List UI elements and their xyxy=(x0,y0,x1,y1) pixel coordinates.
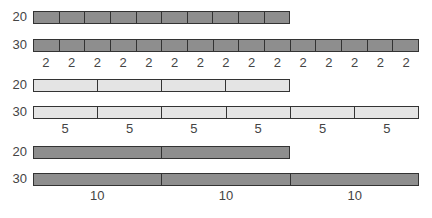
bar-segment xyxy=(265,12,290,23)
unit-label: 2 xyxy=(239,56,265,70)
bar-segment xyxy=(111,12,137,23)
unit-label: 2 xyxy=(59,56,85,70)
bar-segment xyxy=(111,40,137,51)
unit-label: 2 xyxy=(136,56,162,70)
bar-20 xyxy=(33,146,290,159)
unit-label: 5 xyxy=(226,122,290,136)
bar-segment xyxy=(316,40,342,51)
unit-label: 10 xyxy=(162,189,291,203)
unit-label: 2 xyxy=(110,56,136,70)
bar-segment xyxy=(60,12,86,23)
unit-label: 10 xyxy=(33,189,162,203)
bar-segment xyxy=(34,107,98,118)
bar-segment xyxy=(226,80,289,91)
bar-segment xyxy=(188,12,214,23)
bar-segment xyxy=(342,40,368,51)
bar-segment xyxy=(34,174,162,185)
bar-segment xyxy=(368,40,394,51)
bar-segment xyxy=(34,40,60,51)
bar-30 xyxy=(33,106,419,119)
unit-label: 2 xyxy=(162,56,188,70)
bar-segment xyxy=(85,40,111,51)
unit-label: 2 xyxy=(84,56,110,70)
bar-segment xyxy=(291,174,418,185)
bar-segment xyxy=(162,80,226,91)
unit-label: 5 xyxy=(162,122,226,136)
unit-label: 2 xyxy=(265,56,291,70)
bar-segment xyxy=(239,12,265,23)
bar-segment xyxy=(137,40,163,51)
bar-segment xyxy=(213,12,239,23)
bar-segment xyxy=(34,12,60,23)
bar-segment xyxy=(162,174,290,185)
bar-segment xyxy=(162,107,226,118)
bar-30 xyxy=(33,39,419,52)
bar-20 xyxy=(33,11,290,24)
row-label: 20 xyxy=(0,145,27,159)
bar-segment xyxy=(291,107,355,118)
unit-label: 2 xyxy=(368,56,394,70)
bar-segment xyxy=(355,107,418,118)
bar-segment xyxy=(162,147,289,158)
bar-segment xyxy=(162,12,188,23)
bar-segment xyxy=(98,80,162,91)
bar-segment xyxy=(98,107,162,118)
unit-label: 5 xyxy=(33,122,97,136)
bar-segment xyxy=(137,12,163,23)
bar-segment xyxy=(162,40,188,51)
bar-segment xyxy=(60,40,86,51)
unit-label: 2 xyxy=(213,56,239,70)
bar-segment xyxy=(265,40,291,51)
bar-segment xyxy=(34,80,98,91)
unit-label: 2 xyxy=(290,56,316,70)
unit-label: 2 xyxy=(33,56,59,70)
unit-label: 5 xyxy=(355,122,419,136)
row-label: 20 xyxy=(0,78,27,92)
bar-30 xyxy=(33,173,419,186)
unit-label: 2 xyxy=(187,56,213,70)
unit-label: 2 xyxy=(393,56,419,70)
row-label: 20 xyxy=(0,10,27,24)
bar-segment xyxy=(214,40,240,51)
bar-segment xyxy=(227,107,291,118)
row-label: 30 xyxy=(0,172,27,186)
bar-segment xyxy=(85,12,111,23)
unit-label: 10 xyxy=(290,189,419,203)
bar-segment xyxy=(239,40,265,51)
row-label: 30 xyxy=(0,105,27,119)
bar-segment xyxy=(393,40,418,51)
unit-label: 5 xyxy=(97,122,161,136)
unit-label: 2 xyxy=(316,56,342,70)
bar-segment xyxy=(188,40,214,51)
bar-20 xyxy=(33,79,290,92)
row-label: 30 xyxy=(0,38,27,52)
bar-segment xyxy=(291,40,317,51)
unit-label: 5 xyxy=(290,122,354,136)
bar-segment xyxy=(34,147,162,158)
unit-label: 2 xyxy=(342,56,368,70)
